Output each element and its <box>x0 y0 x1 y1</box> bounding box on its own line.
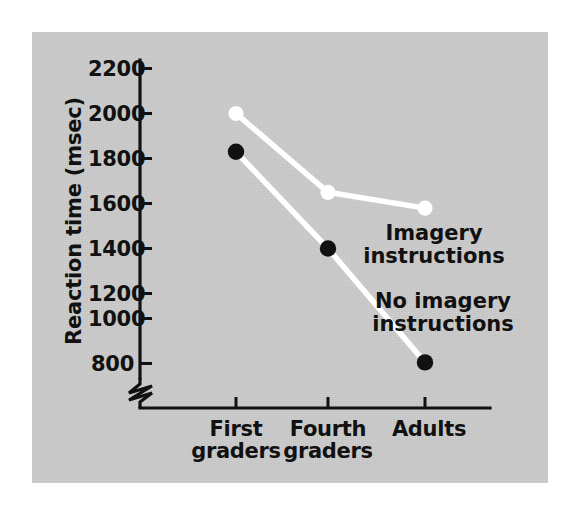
series-markers-imagery-instructions <box>228 106 432 216</box>
annotation-no-imagery-instructions-line1: No imagery <box>372 290 514 313</box>
y-tick-label-2000: 2000 <box>88 102 134 126</box>
annotation-imagery-instructions-line1: Imagery <box>363 222 505 245</box>
y-axis-title: Reaction time (msec) <box>62 97 86 345</box>
y-tick-label-1200: 1200 <box>88 282 134 306</box>
annotation-no-imagery-instructions: No imagery instructions <box>372 290 514 336</box>
x-tick-label-first-graders-line2: graders <box>191 440 281 462</box>
y-tick-label-1800: 1800 <box>88 147 134 171</box>
data-point-no-imagery-fourth-graders[interactable] <box>320 240 336 256</box>
y-tick-label-800: 800 <box>88 352 134 376</box>
annotation-no-imagery-instructions-line2: instructions <box>372 313 514 336</box>
x-tick-label-first-graders-line1: First <box>191 418 281 440</box>
annotation-imagery-instructions-line2: instructions <box>363 245 505 268</box>
chart-figure: Reaction time (msec) 2200 2000 1800 1600… <box>0 0 575 509</box>
x-tick-label-fourth-graders-line2: graders <box>283 440 373 462</box>
x-tick-label-fourth-graders-line1: Fourth <box>283 418 373 440</box>
x-tick-label-adults: Adults <box>392 418 466 440</box>
x-axis-ticks <box>236 397 425 408</box>
data-point-no-imagery-adults[interactable] <box>417 354 433 370</box>
annotation-imagery-instructions: Imagery instructions <box>363 222 505 268</box>
y-tick-label-1600: 1600 <box>88 192 134 216</box>
x-tick-label-fourth-graders: Fourth graders <box>283 418 373 462</box>
data-point-imagery-adults[interactable] <box>417 201 432 216</box>
x-tick-label-first-graders: First graders <box>191 418 281 462</box>
x-tick-label-adults-line1: Adults <box>392 418 466 440</box>
y-tick-label-1400: 1400 <box>88 237 134 261</box>
data-point-no-imagery-first-graders[interactable] <box>228 144 244 160</box>
data-point-imagery-first-graders[interactable] <box>228 106 243 121</box>
y-tick-label-1000: 1000 <box>88 307 134 331</box>
y-tick-label-2200: 2200 <box>88 57 134 81</box>
y-axis-break-icon <box>129 378 152 408</box>
data-point-imagery-fourth-graders[interactable] <box>320 185 335 200</box>
